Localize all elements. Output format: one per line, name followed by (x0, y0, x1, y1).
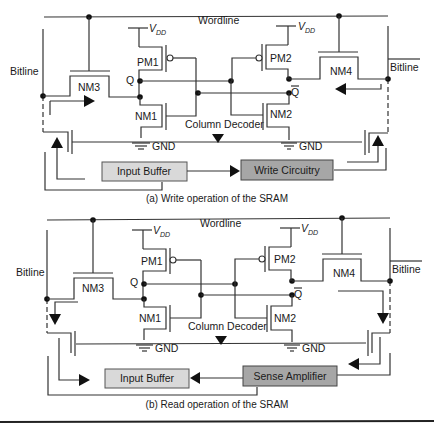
arrow-left-icon (190, 372, 200, 384)
bitline-left-label: Bitline (16, 266, 45, 278)
arrow-right-icon (230, 165, 240, 177)
vdd-left-label: VDD (149, 22, 166, 36)
input-buffer-label: Input Buffer (117, 165, 172, 177)
wordline-label: Wordline (198, 14, 239, 26)
sram-diagram: Wordline Bitline Bitline NM3 VDD PM1 (0, 0, 434, 425)
q-node-label: Q (126, 74, 134, 86)
bottom-divider (0, 421, 434, 422)
sense-amplifier-label: Sense Amplifier (254, 370, 327, 382)
nm4-label: NM4 (333, 267, 355, 279)
nm3-label: NM3 (78, 81, 100, 93)
gnd-right-label: GND (302, 342, 326, 354)
panel-write: Wordline Bitline Bitline NM3 VDD PM1 (10, 13, 420, 204)
arrow-up-icon (372, 135, 384, 146)
arrow-right-icon (84, 95, 95, 107)
gnd-right-label: GND (299, 140, 323, 152)
arrow-left-icon (348, 358, 359, 370)
panel-read: Wordline Bitline Bitline NM3 VDD PM1 (16, 215, 422, 410)
caption-write: (a) Write operation of the SRAM (146, 193, 288, 204)
vdd-left-label: VDD (153, 224, 170, 238)
nm3-label: NM3 (82, 282, 104, 294)
bitline-right-label: Bitline (392, 263, 421, 275)
pm1-label: PM1 (137, 56, 159, 68)
qbar-node-label: Q (294, 288, 302, 300)
bitline-right-label: Bitline (390, 61, 419, 73)
nm4-label: NM4 (330, 65, 352, 77)
arrow-down-icon (49, 314, 61, 325)
vdd-right-label: VDD (301, 222, 318, 236)
q-node-label: Q (130, 276, 138, 288)
nm1-label: NM1 (139, 312, 161, 324)
nm2-label: NM2 (274, 312, 296, 324)
nm2-label: NM2 (270, 108, 292, 120)
vdd-right-label: VDD (298, 20, 315, 34)
wordline-label: Wordline (200, 217, 241, 229)
arrow-left-icon (335, 83, 346, 95)
column-decoder-label: Column Decoder (185, 118, 264, 130)
input-buffer-label: Input Buffer (120, 372, 175, 384)
pm1-label: PM1 (141, 255, 163, 267)
bitline-left-label: Bitline (10, 65, 39, 77)
caption-read: (b) Read operation of the SRAM (146, 399, 289, 410)
arrow-right-icon (79, 374, 90, 386)
qbar-node-label: Q (291, 86, 299, 98)
column-decoder-label: Column Decoder (188, 320, 267, 332)
nm1-label: NM1 (135, 110, 157, 122)
arrow-up-icon (51, 137, 63, 148)
write-circuitry-label: Write Circuitry (254, 164, 320, 176)
pm2-label: PM2 (270, 52, 292, 64)
arrow-down-icon (377, 313, 389, 324)
pm2-label: PM2 (274, 253, 296, 265)
